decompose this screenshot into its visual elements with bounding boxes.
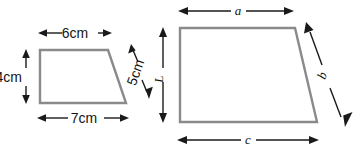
arrowhead-right-icon [120, 114, 129, 122]
large-trapezoid-shape [180, 28, 317, 122]
arrowhead-right-icon [284, 7, 294, 15]
large-left-dimension: L [151, 27, 167, 123]
arrowhead-left-icon [178, 7, 188, 15]
arrowhead-down-icon [343, 112, 352, 127]
arrowhead-left-icon [177, 136, 187, 144]
arrowhead-right-icon [309, 136, 319, 144]
small-top-dimension: 6cm [38, 25, 112, 41]
arrowhead-up-icon [159, 27, 167, 37]
large-slant-label: b [314, 69, 330, 81]
arrowhead-down-icon [159, 113, 167, 123]
small-slant-dimension: 5cm [123, 44, 153, 99]
small-bottom-dimension: 7cm [37, 110, 129, 126]
arrowhead-up-icon [304, 22, 314, 34]
trapezoid-diagram: 6cm 4cm 7cm 5cm [0, 0, 359, 154]
arrowhead-down-icon [22, 95, 30, 104]
arrowhead-right-icon [103, 29, 112, 37]
arrowhead-down-icon [145, 87, 152, 99]
arrowhead-left-icon [38, 29, 47, 37]
small-top-label: 6cm [62, 25, 88, 41]
small-trapezoid-shape [40, 50, 126, 103]
small-left-dimension: 4cm [0, 49, 30, 104]
large-top-label: a [235, 3, 242, 18]
large-bottom-dimension: c [177, 132, 319, 147]
large-bottom-label: c [245, 132, 251, 147]
arrowhead-up-icon [22, 49, 30, 58]
large-left-label: L [151, 75, 166, 83]
diagram-canvas: 6cm 4cm 7cm 5cm [0, 0, 359, 154]
large-top-dimension: a [178, 3, 294, 18]
small-bottom-label: 7cm [71, 110, 97, 126]
small-left-label: 4cm [0, 69, 22, 85]
arrowhead-left-icon [37, 114, 46, 122]
